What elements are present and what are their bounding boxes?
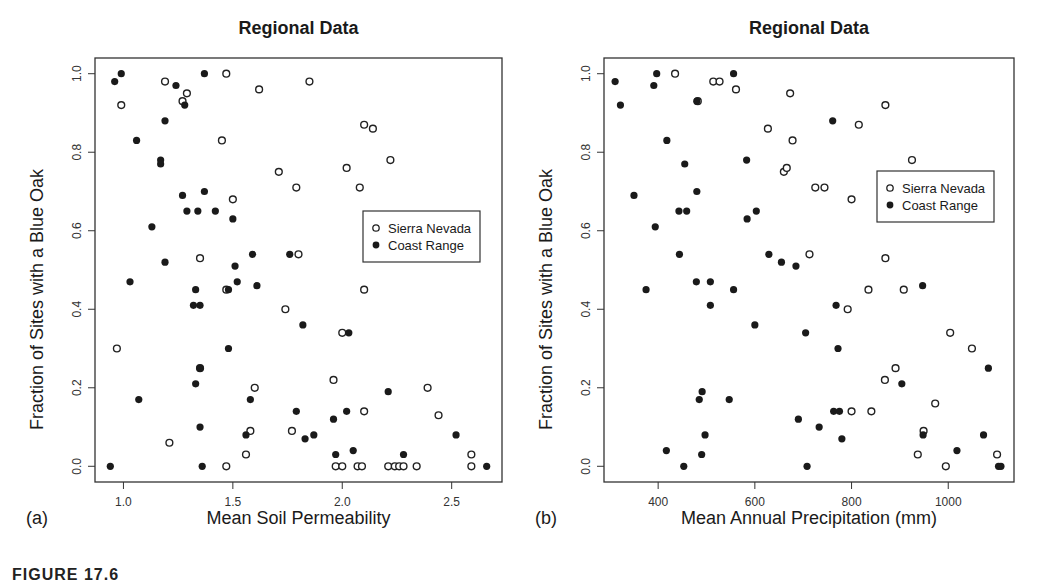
data-point [726, 396, 733, 403]
data-point [765, 251, 772, 258]
data-point [162, 78, 169, 85]
data-point [172, 82, 179, 89]
data-point [310, 431, 317, 438]
data-point [612, 78, 619, 85]
data-point [196, 423, 203, 430]
data-point [806, 251, 813, 258]
data-point [359, 463, 366, 470]
data-point [251, 384, 258, 391]
legend: Sierra NevadaCoast Range [877, 171, 994, 222]
y-tick-label: 1.0 [70, 65, 84, 82]
data-point [812, 184, 819, 191]
data-point [293, 184, 300, 191]
data-point [339, 463, 346, 470]
data-point [435, 412, 442, 419]
y-tick-label: 0.0 [70, 458, 84, 475]
data-point [744, 215, 751, 222]
data-point [289, 428, 296, 435]
data-point [350, 447, 357, 454]
data-point [909, 157, 916, 164]
legend-filled-circle-icon [373, 242, 380, 249]
data-point [699, 388, 706, 395]
y-tick-label: 0.8 [70, 144, 84, 161]
data-point [969, 345, 976, 352]
data-point [161, 117, 168, 124]
y-tick-label: 0.6 [70, 222, 84, 239]
figure-caption: FIGURE 17.6 [12, 566, 119, 581]
data-point [229, 196, 236, 203]
data-point [111, 78, 118, 85]
data-point [844, 306, 851, 313]
data-point [693, 278, 700, 285]
data-point [107, 463, 114, 470]
data-point [848, 196, 855, 203]
data-point [953, 447, 960, 454]
y-tick-label: 0.0 [579, 458, 593, 475]
data-point [332, 463, 339, 470]
data-point [400, 463, 407, 470]
x-tick-label: 400 [648, 495, 668, 509]
data-point [663, 447, 670, 454]
data-point [675, 208, 682, 215]
y-tick-label: 0.4 [579, 301, 593, 318]
data-point [468, 451, 475, 458]
data-point [196, 302, 203, 309]
data-point [882, 255, 889, 262]
data-point [225, 286, 232, 293]
panel-a-plot: 1.01.52.02.50.00.20.40.60.81.0Sierra Nev… [0, 0, 520, 560]
data-point [413, 463, 420, 470]
data-point [848, 408, 855, 415]
data-point [947, 329, 954, 336]
data-point [194, 208, 201, 215]
y-tick-label: 0.2 [579, 379, 593, 396]
data-point [256, 86, 263, 93]
data-point [802, 329, 809, 336]
data-point [696, 396, 703, 403]
legend: Sierra NevadaCoast Range [363, 211, 480, 262]
data-point [223, 463, 230, 470]
data-point [332, 451, 339, 458]
data-point [914, 451, 921, 458]
data-point [385, 463, 392, 470]
data-point [299, 321, 306, 328]
data-point [157, 160, 164, 167]
data-point [135, 396, 142, 403]
data-point [994, 451, 1001, 458]
legend-entry: Sierra Nevada [902, 181, 986, 196]
data-point [253, 282, 260, 289]
plot-frame [604, 58, 1014, 482]
data-point [148, 223, 155, 230]
data-point [821, 184, 828, 191]
data-point [693, 98, 700, 105]
data-point [181, 102, 188, 109]
data-point [868, 408, 875, 415]
data-point [275, 168, 282, 175]
legend-entry: Coast Range [902, 198, 978, 213]
series-coast-range [107, 70, 491, 470]
data-point [701, 431, 708, 438]
data-point [680, 463, 687, 470]
data-point [730, 286, 737, 293]
data-point [997, 463, 1004, 470]
data-point [184, 90, 191, 97]
x-tick-label: 2.5 [443, 495, 460, 509]
data-point [707, 278, 714, 285]
data-point [190, 302, 197, 309]
data-point [242, 431, 249, 438]
data-point [468, 463, 475, 470]
data-point [343, 165, 350, 172]
data-point [650, 82, 657, 89]
data-point [345, 329, 352, 336]
data-point [231, 262, 238, 269]
panel-a: Regional Data Fraction of Sites with a B… [0, 0, 520, 560]
data-point [369, 125, 376, 132]
data-point [330, 377, 337, 384]
data-point [197, 255, 204, 262]
data-point [681, 160, 688, 167]
data-point [385, 388, 392, 395]
data-point [161, 259, 168, 266]
data-point [683, 208, 690, 215]
data-point [733, 86, 740, 93]
data-point [792, 262, 799, 269]
y-tick-label: 0.8 [579, 144, 593, 161]
